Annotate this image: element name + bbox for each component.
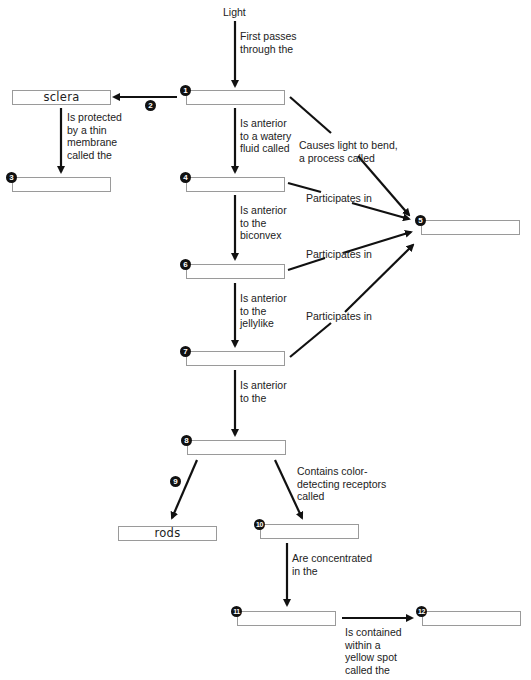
edge-label-light-to-1: First passes through the <box>240 30 297 55</box>
edge-label-6-to-5: Participates in <box>306 248 372 261</box>
edge-label-1-to-4: Is anterior to a watery fluid called <box>240 117 291 155</box>
arrow-4-to-5-head <box>288 183 321 192</box>
edge-label-7-to-8: Is anterior to the <box>240 379 287 404</box>
edge-marker-9: 9 <box>170 476 181 487</box>
source-label-light: Light <box>223 6 246 19</box>
answer-box-3[interactable] <box>12 177 111 192</box>
node-marker-8: 8 <box>181 435 192 446</box>
node-marker-11: 11 <box>231 606 242 617</box>
arrow-7-to-5-head <box>290 323 331 357</box>
edge-label-7-to-5: Participates in <box>306 310 372 323</box>
edge-label-1-to-5: Causes light to bend, a process called <box>299 139 398 164</box>
node-marker-10: 10 <box>254 519 265 530</box>
edge-label-4-to-6: Is anterior to the biconvex <box>240 204 287 242</box>
answer-box-4[interactable] <box>186 177 285 192</box>
answer-box-11[interactable] <box>237 611 336 626</box>
answer-box-1[interactable] <box>186 90 285 105</box>
answer-box-8[interactable] <box>187 440 286 455</box>
edge-label-4-to-5: Participates in <box>306 192 372 205</box>
edge-label-10-to-11: Are concentrated in the <box>292 552 372 577</box>
arrow-1-to-5 <box>290 97 331 133</box>
edge-label-11-to-12: Is contained within a yellow spot called… <box>345 626 402 676</box>
node-marker-6: 6 <box>180 259 191 270</box>
node-box-sclera: sclera <box>12 90 111 105</box>
edge-label-6-to-7: Is anterior to the jellylike <box>240 292 287 330</box>
answer-box-6[interactable] <box>186 264 285 279</box>
answer-box-12[interactable] <box>422 611 521 626</box>
arrow-8-to-rods <box>172 460 197 518</box>
node-marker-1: 1 <box>180 85 191 96</box>
edge-label-8-to-10: Contains color- detecting receptors call… <box>297 465 386 503</box>
node-marker-4: 4 <box>180 172 191 183</box>
node-marker-12: 12 <box>416 606 427 617</box>
node-marker-3: 3 <box>6 172 17 183</box>
answer-box-7[interactable] <box>186 351 285 366</box>
answer-box-10[interactable] <box>260 524 359 539</box>
edge-marker-2: 2 <box>145 100 156 111</box>
answer-box-5[interactable] <box>421 220 520 235</box>
edge-label-sclera-to-3: Is protected by a thin membrane called t… <box>67 111 122 161</box>
node-box-rods: rods <box>118 526 217 541</box>
node-marker-5: 5 <box>415 215 426 226</box>
node-marker-7: 7 <box>180 346 191 357</box>
